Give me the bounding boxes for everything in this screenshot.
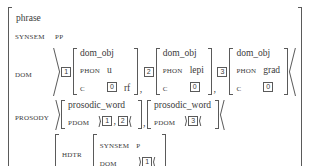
- dtrs-body: HDTR: [59, 134, 198, 166]
- dom-item-features: PHON grad C 0: [236, 59, 280, 95]
- bracket-right: [284, 48, 288, 95]
- row-c: C 0: [236, 77, 280, 95]
- phon-label: PHON: [163, 64, 183, 75]
- pdom-tags: 1 , 2: [101, 116, 129, 127]
- pdom-value-cell: 1 , 2: [96, 111, 134, 129]
- c-value-cell: 0 rf: [107, 77, 130, 95]
- dom-item: 1 dom_obj PHON: [61, 48, 138, 95]
- list-comma: ,: [138, 83, 144, 94]
- pdom-angle-right: [199, 116, 204, 126]
- row-pdom: PDOM 1 ,: [68, 111, 134, 129]
- dom-list: 1 dom_obj PHON: [60, 48, 289, 95]
- c-value-cell: 0: [190, 77, 204, 95]
- dom-item: 2 dom_obj PHON: [144, 48, 212, 95]
- hdtr-body: SYNSEM P DOM: [97, 134, 163, 166]
- pdom-label: PDOM: [68, 116, 89, 127]
- c-extra: rf: [121, 83, 130, 93]
- list-comma: ,: [212, 83, 218, 94]
- prosodic-word-body: prosodic_word PDOM: [151, 100, 215, 129]
- dom-item-tag: 1: [61, 67, 71, 77]
- hdtr-features: SYNSEM P DOM: [100, 134, 159, 166]
- hdtr-label-cell: HDTR: [62, 134, 93, 166]
- row-prosody: PROSODY prosodic_word: [15, 100, 294, 129]
- outer-matrix-body: phrase SYNSEM PP: [12, 7, 298, 166]
- row-phon: PHON lepi: [163, 59, 204, 77]
- phon-label-cell: PHON: [236, 59, 263, 77]
- prosodic-word-body: prosodic_word PDOM: [65, 100, 138, 129]
- c-label-cell: C: [80, 77, 107, 95]
- synsem-label: SYNSEM: [15, 30, 45, 41]
- top-sort-label: phrase: [15, 13, 41, 23]
- c-tag: 0: [263, 82, 273, 92]
- row-synsem: SYNSEM P: [100, 134, 159, 152]
- prosody-label-cell: PROSODY: [15, 100, 55, 129]
- outer-matrix-bracket: phrase SYNSEM PP: [8, 7, 302, 166]
- row-phon: PHON u: [80, 59, 130, 77]
- c-extra: [200, 83, 203, 93]
- row-pdom: PDOM 3: [154, 111, 204, 129]
- list-comma: ,: [142, 117, 148, 128]
- avm-figure: phrase SYNSEM PP: [0, 0, 310, 166]
- prosody-angle-left: [55, 100, 60, 129]
- pdom-angle-right: [129, 116, 134, 127]
- pdom-angle-left: [182, 116, 187, 126]
- row-dom: DOM 1: [100, 152, 159, 166]
- phon-value: u: [107, 65, 112, 75]
- bracket-right: [215, 100, 219, 129]
- dtrs-features: HDTR: [62, 134, 194, 166]
- prosodic-word-features: PDOM 1 ,: [68, 111, 134, 129]
- dom-item-bracket: dom_obj PHON u: [73, 48, 138, 95]
- phon-value-cell: u: [107, 59, 130, 77]
- c-extra: [273, 83, 276, 93]
- c-tag: 0: [190, 82, 200, 92]
- pdom-value-cell: 3: [182, 111, 204, 129]
- dom-angle-right: [289, 48, 294, 95]
- prosody-list: prosodic_word PDOM: [60, 100, 220, 129]
- row-c: C 0 rf: [80, 77, 130, 95]
- dtrs-bracket: HDTR: [55, 134, 198, 166]
- phon-label-cell: PHON: [80, 59, 107, 77]
- c-label-cell: C: [236, 77, 263, 95]
- prosodic-word-sort: prosodic_word: [154, 100, 211, 111]
- prosody-label: PROSODY: [15, 111, 49, 122]
- phon-label: PHON: [236, 64, 256, 75]
- dom-angle-left: [55, 48, 60, 95]
- prosody-value-cell: prosodic_word PDOM: [55, 100, 294, 129]
- top-sort-row: phrase: [15, 7, 294, 25]
- row-hdtr: HDTR: [62, 134, 194, 166]
- dom-value-cell: 1 dom_obj PHON: [55, 48, 294, 95]
- synsem-value-cell: PP: [55, 25, 294, 43]
- pdom-tag-list: 1 , 2: [96, 116, 134, 127]
- c-label: C: [80, 82, 85, 93]
- pdom-tag: 3: [188, 116, 198, 126]
- phon-label-cell: PHON: [163, 59, 190, 77]
- bracket-right: [162, 134, 166, 166]
- row-phon: PHON grad: [236, 59, 280, 77]
- prosodic-word-sort: prosodic_word: [68, 100, 134, 111]
- dom-item-tag: 3: [217, 67, 227, 77]
- list-comma: ,: [112, 115, 118, 126]
- dom-tag: 1: [142, 157, 152, 166]
- row-dom: DOM 1: [15, 48, 294, 95]
- synsem-value: P: [136, 139, 140, 150]
- dtrs-value-cell: HDTR: [55, 134, 294, 166]
- dtrs-label-cell: DTRS: [15, 134, 55, 166]
- synsem-label-cell: SYNSEM: [100, 134, 137, 152]
- angle-left: [136, 157, 141, 166]
- synsem-value-cell: P: [136, 134, 158, 152]
- prosody-list-angle-brackets: prosodic_word PDOM: [55, 100, 225, 129]
- prosodic-word-bracket: prosodic_word PDOM: [61, 100, 142, 129]
- dom-item-bracket: dom_obj PHON lepi: [156, 48, 212, 95]
- dom-item-features: PHON u C 0: [80, 59, 130, 95]
- synsem-value: PP: [55, 30, 63, 41]
- row-synsem: SYNSEM PP: [15, 25, 294, 43]
- synsem-label-cell: SYNSEM: [15, 25, 55, 43]
- dom-item-sort: dom_obj: [80, 48, 130, 59]
- synsem-label: SYNSEM: [100, 139, 130, 150]
- dom-item-body: dom_obj PHON u: [77, 48, 134, 95]
- phon-value-cell: grad: [263, 59, 280, 77]
- pdom-tag-list: 3: [182, 116, 204, 126]
- hdtr-value-cell: SYNSEM P DOM: [93, 134, 194, 166]
- dom-item: 3 dom_obj PHON: [217, 48, 288, 95]
- row-c: C 0: [163, 77, 204, 95]
